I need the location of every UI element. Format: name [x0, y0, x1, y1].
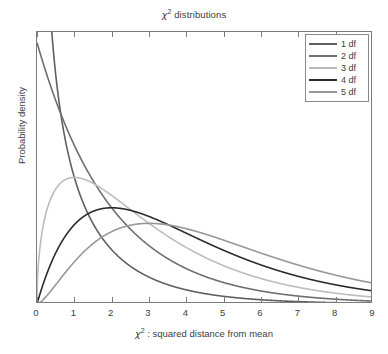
legend[interactable]: 1 df2 df3 df4 df5 df [305, 34, 369, 102]
x-tick-2 [112, 297, 113, 302]
x-tick-label-3: 3 [136, 307, 160, 318]
x-tick-label-8: 8 [323, 307, 347, 318]
x-tick-5 [224, 297, 225, 302]
legend-item-3-df[interactable]: 3 df [309, 62, 365, 74]
x-tick-3 [149, 297, 150, 302]
legend-swatch-line-icon [309, 67, 337, 69]
chi-squared-distribution-figure: χ2 distributions 0123456789 χ2 : squared… [0, 0, 388, 354]
x-tick-label-9: 9 [360, 307, 384, 318]
x-tick-8 [336, 297, 337, 302]
legend-swatch-line-icon [309, 91, 337, 93]
legend-item-2-df[interactable]: 2 df [309, 50, 365, 62]
x-tick-label-6: 6 [248, 307, 272, 318]
chart-title: χ2 distributions [0, 8, 388, 20]
x-tick-6 [261, 32, 262, 37]
x-tick-4 [186, 297, 187, 302]
x-tick-0 [37, 32, 38, 37]
x-tick-0 [37, 297, 38, 302]
x-tick-label-0: 0 [24, 307, 48, 318]
x-tick-label-5: 5 [211, 307, 235, 318]
legend-label: 2 df [341, 51, 356, 61]
legend-swatch-line-icon [309, 79, 337, 81]
x-tick-4 [186, 32, 187, 37]
x-tick-6 [261, 297, 262, 302]
x-tick-label-1: 1 [61, 307, 85, 318]
legend-swatch-line-icon [309, 43, 337, 45]
x-tick-2 [112, 32, 113, 37]
xlabel-rest: : squared distance from mean [145, 328, 273, 339]
x-tick-1 [74, 297, 75, 302]
legend-item-1-df[interactable]: 1 df [309, 38, 365, 50]
legend-label: 1 df [341, 39, 356, 49]
legend-item-5-df[interactable]: 5 df [309, 86, 365, 98]
x-tick-label-4: 4 [173, 307, 197, 318]
y-axis-label: Probability density [16, 46, 27, 206]
x-tick-5 [224, 32, 225, 37]
curve-3df [37, 177, 372, 303]
x-tick-label-2: 2 [99, 307, 123, 318]
legend-item-4-df[interactable]: 4 df [309, 74, 365, 86]
x-tick-3 [149, 32, 150, 37]
legend-swatch-line-icon [309, 55, 337, 57]
legend-label: 4 df [341, 75, 356, 85]
title-rest: distributions [172, 9, 227, 20]
legend-label: 5 df [341, 87, 356, 97]
curve-4df [37, 208, 372, 303]
x-axis-label: χ2 : squared distance from mean [36, 327, 372, 339]
x-tick-7 [298, 32, 299, 37]
x-tick-7 [298, 297, 299, 302]
x-tick-label-7: 7 [285, 307, 309, 318]
x-tick-1 [74, 32, 75, 37]
legend-label: 3 df [341, 63, 356, 73]
